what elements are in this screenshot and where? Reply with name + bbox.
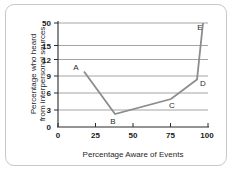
y-axis-title-line2: from interpersonal sources <box>38 27 47 122</box>
x-tick-label-25: 25 <box>91 131 100 140</box>
data-point-label-b: B <box>110 117 115 126</box>
data-point-label-a: A <box>73 63 79 72</box>
y-axis-title-line1: Percentage who heard <box>29 34 38 115</box>
data-series-line <box>84 23 203 114</box>
y-tick-label-0: 0 <box>47 123 52 132</box>
x-tick-marks <box>58 123 208 127</box>
data-point-label-e: E <box>197 23 202 32</box>
x-tick-label-100: 100 <box>200 131 214 140</box>
line-chart: 50 15 12 9 6 3 0 0 25 50 75 100 A B C D … <box>0 0 234 173</box>
x-tick-label-0: 0 <box>56 131 61 140</box>
y-tick-marks <box>54 23 58 110</box>
gridlines <box>58 23 208 110</box>
y-tick-label-9: 9 <box>47 72 52 81</box>
data-point-label-c: C <box>169 101 175 110</box>
data-point-label-d: D <box>200 79 206 88</box>
y-tick-label-3: 3 <box>47 106 52 115</box>
y-tick-label-6: 6 <box>47 89 52 98</box>
x-tick-label-50: 50 <box>129 131 138 140</box>
x-tick-labels: 0 25 50 75 100 <box>56 131 214 140</box>
axes <box>57 21 209 127</box>
x-tick-label-75: 75 <box>166 131 175 140</box>
x-axis-title: Percentage Aware of Events <box>83 150 184 159</box>
data-point-labels: A B C D E <box>73 23 206 126</box>
chart-figure: 50 15 12 9 6 3 0 0 25 50 75 100 A B C D … <box>0 0 234 173</box>
